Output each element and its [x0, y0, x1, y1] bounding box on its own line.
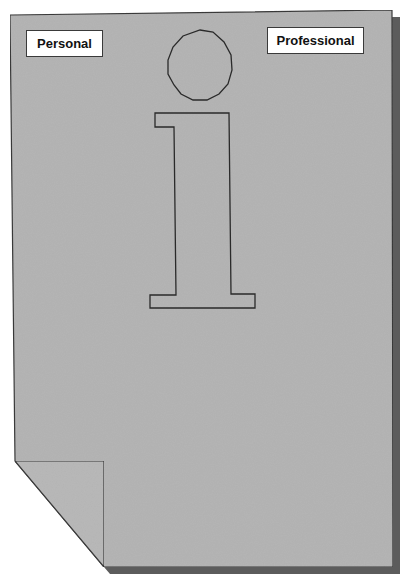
personal-label: Personal [26, 30, 103, 57]
professional-label: Professional [267, 27, 364, 54]
dog-ear-fold-icon [15, 461, 104, 567]
personal-label-text: Personal [37, 36, 92, 51]
professional-label-text: Professional [276, 33, 354, 48]
document-page-illustration [0, 0, 407, 579]
